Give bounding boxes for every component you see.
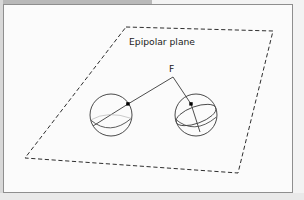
- left-sphere-equator-arc: [91, 118, 132, 127]
- focus-point-label: F: [169, 63, 174, 74]
- left-sphere-equator-back-arc: [91, 115, 132, 120]
- figure-panel: Epipolar plane F: [3, 4, 293, 193]
- epipolar-geometry-diagram: Epipolar plane F: [4, 5, 292, 192]
- ray-left-from-focus: [128, 77, 173, 104]
- ray-right-inside-sphere: [191, 104, 200, 132]
- epipolar-plane-label: Epipolar plane: [129, 36, 195, 47]
- bottom-gray-strip: [0, 193, 304, 200]
- right-sphere-great-circle: [173, 100, 218, 130]
- epipolar-plane-outline: [25, 27, 273, 173]
- figure-root: Epipolar plane F: [0, 0, 304, 200]
- right-sphere-outline: [175, 94, 217, 136]
- ray-left-inside-sphere: [93, 104, 128, 126]
- left-sphere-image-point: [126, 102, 129, 105]
- right-sphere-image-point: [189, 102, 192, 105]
